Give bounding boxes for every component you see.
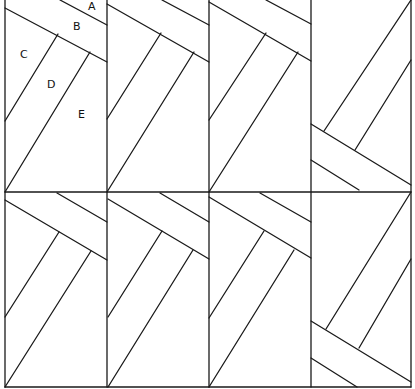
quilt-diagram: A B C D E bbox=[0, 0, 415, 389]
label-e: E bbox=[78, 108, 85, 121]
block-grid bbox=[5, 0, 411, 387]
block-bottom-1 bbox=[5, 193, 107, 387]
block-bottom-3 bbox=[209, 193, 311, 387]
block-top-2 bbox=[107, 0, 209, 192]
label-c: C bbox=[20, 48, 28, 61]
label-d: D bbox=[47, 78, 55, 91]
block-top-3 bbox=[209, 0, 311, 192]
label-a: A bbox=[88, 0, 96, 13]
block-top-4 bbox=[311, 0, 411, 190]
block-bottom-4 bbox=[311, 192, 411, 387]
block-top-1 bbox=[5, 0, 107, 192]
label-b: B bbox=[73, 20, 81, 33]
block-bottom-2 bbox=[108, 193, 209, 387]
